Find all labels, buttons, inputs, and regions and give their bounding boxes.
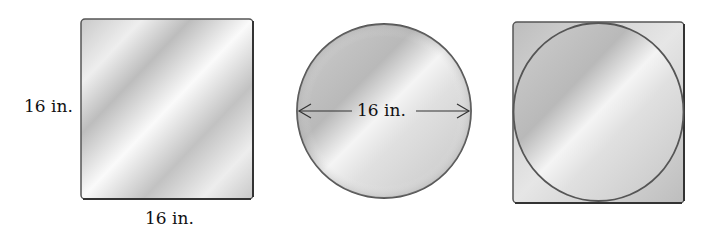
circle-in-square-figure bbox=[513, 22, 684, 203]
square-figure bbox=[81, 19, 253, 199]
diagram-canvas bbox=[0, 0, 707, 233]
circle-diameter-label: 16 in. bbox=[357, 100, 406, 120]
square-side-label: 16 in. bbox=[24, 96, 73, 116]
square-bottom-label: 16 in. bbox=[145, 208, 194, 228]
